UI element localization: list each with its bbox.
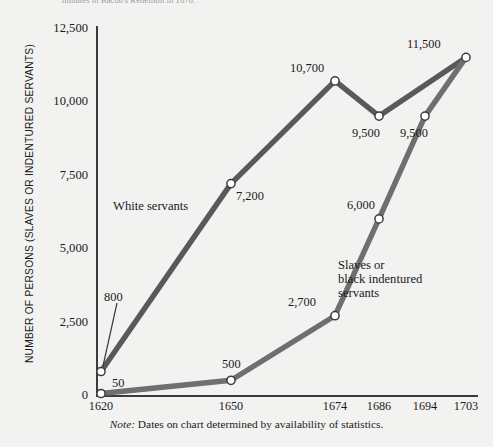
data-point-marker: [331, 77, 339, 85]
series-label-slaves-line2: black indentured: [338, 272, 422, 286]
x-tick-label-1620: 1620: [89, 400, 113, 413]
data-point-marker: [375, 112, 383, 120]
chart-note-text: Dates on chart determined by availabilit…: [135, 418, 383, 430]
data-label-white-1650: 7,200: [236, 190, 264, 202]
x-tick-label-1650: 1650: [219, 400, 243, 413]
x-tick-label-1703: 1703: [454, 400, 478, 413]
data-label-white-1674: 10,700: [290, 62, 324, 74]
chart-note: Note: Dates on chart determined by avail…: [0, 418, 493, 430]
data-label-slaves-1686: 6,000: [347, 199, 375, 211]
series-label-slaves-line1: Slaves or: [338, 258, 385, 272]
data-label-white-1620: 800: [104, 291, 123, 303]
series-line-slaves-black-indentured: [101, 57, 466, 393]
x-tick-label-1686: 1686: [367, 400, 391, 413]
x-tick-label-1674: 1674: [323, 400, 347, 413]
chart-note-prefix: Note:: [110, 418, 135, 430]
plot-area: [0, 0, 493, 447]
data-label-slaves-1694: 9,500: [400, 127, 428, 139]
data-label-slaves-1674: 2,700: [288, 296, 316, 308]
series-line-white-servants: [101, 57, 466, 371]
data-point-marker: [375, 215, 383, 223]
series-label-white-servants: White servants: [113, 199, 188, 213]
data-point-marker: [462, 53, 470, 61]
data-label-white-1686: 9,500: [352, 127, 380, 139]
data-label-white-1703: 11,500: [407, 38, 441, 50]
chart-figure: minutes in Bacon's Rebellion in 1676. NU…: [0, 0, 493, 447]
series-label-slaves-line3: servants: [338, 286, 379, 300]
data-label-slaves-1620: 50: [112, 377, 124, 389]
x-tick-label-1694: 1694: [413, 400, 437, 413]
data-label-slaves-1650: 500: [222, 358, 241, 370]
data-point-marker: [97, 389, 105, 397]
data-point-marker: [227, 180, 235, 188]
data-point-marker: [421, 112, 429, 120]
data-point-marker: [97, 367, 105, 375]
data-point-marker: [331, 312, 339, 320]
data-point-marker: [227, 376, 235, 384]
